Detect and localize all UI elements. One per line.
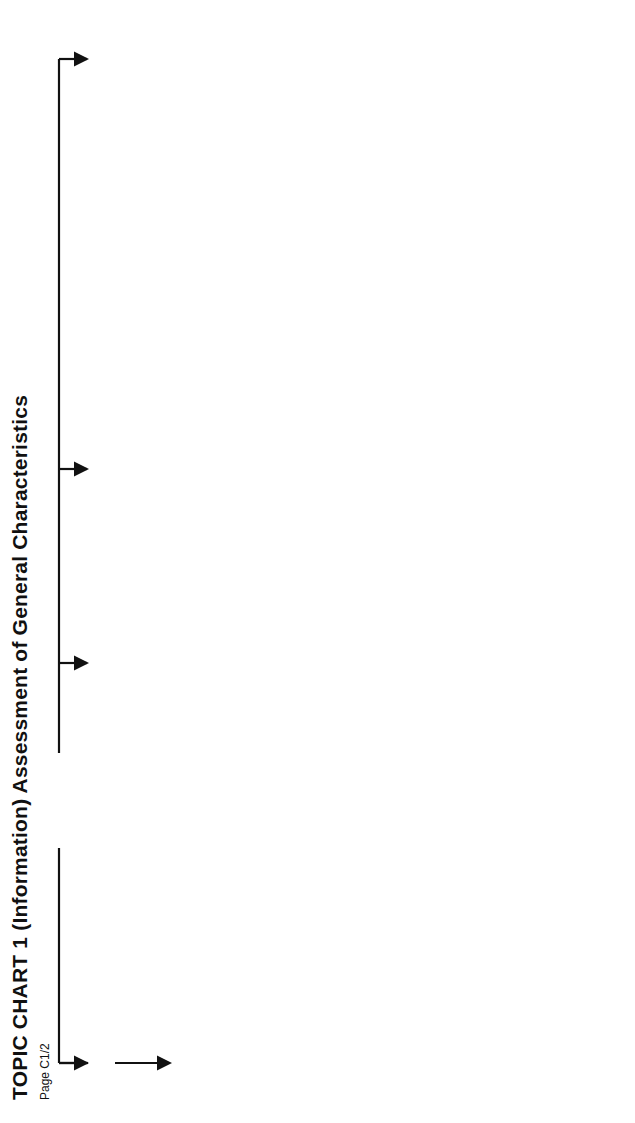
page-title: TOPIC CHART 1 (Information) Assessment o… [8, 395, 32, 1100]
rotated-page: TOPIC CHART 1 (Information) Assessment o… [0, 0, 635, 1123]
flow-connectors [0, 0, 635, 1123]
page-label: Page C1/2 [38, 1043, 52, 1100]
